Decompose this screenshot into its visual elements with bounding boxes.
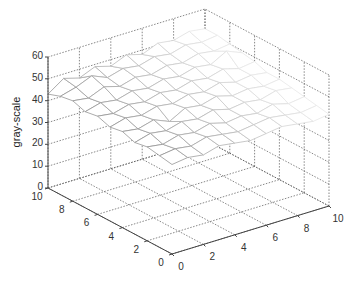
x-tick-label: 4 xyxy=(241,242,247,253)
y-tick-label: 8 xyxy=(59,204,65,215)
surface-plot: 024681002468100102030405060 gray-scale xyxy=(0,0,360,281)
floor-grid-line xyxy=(122,180,279,228)
z-axis-label: gray-scale xyxy=(10,97,22,148)
x-tick-mark xyxy=(266,225,268,227)
x-tick-mark xyxy=(329,206,331,208)
x-tick-label: 0 xyxy=(178,261,184,272)
y-tick-mark xyxy=(144,241,147,242)
floor-grid-line xyxy=(79,178,203,244)
floor-grid-line xyxy=(142,159,266,225)
z-tick-label: 30 xyxy=(32,116,44,127)
x-tick-label: 2 xyxy=(210,251,216,262)
z-tick-label: 0 xyxy=(37,181,43,192)
z-tick-label: 60 xyxy=(32,50,44,61)
y-tick-mark xyxy=(119,228,122,229)
floor-grid-line xyxy=(147,193,304,241)
z-tick-label: 20 xyxy=(32,137,44,148)
x-tick-mark xyxy=(235,235,237,237)
x-tick-mark xyxy=(203,244,205,246)
floor-grid-line xyxy=(174,150,298,216)
z-tick-label: 10 xyxy=(32,159,44,170)
y-axis-line xyxy=(48,188,172,254)
y-tick-label: 6 xyxy=(84,217,90,228)
y-tick-label: 10 xyxy=(31,191,43,202)
y-tick-mark xyxy=(169,254,172,255)
y-tick-mark xyxy=(70,201,73,202)
x-tick-label: 6 xyxy=(272,232,278,243)
x-tick-label: 8 xyxy=(304,223,310,234)
z-tick-label: 50 xyxy=(32,72,44,83)
z-tick-label: 40 xyxy=(32,94,44,105)
y-tick-label: 0 xyxy=(158,257,164,268)
floor-grid-line xyxy=(73,153,230,201)
surface-layer xyxy=(48,29,329,165)
x-tick-mark xyxy=(172,254,174,256)
floor-grid-line xyxy=(98,166,255,214)
y-tick-label: 4 xyxy=(109,231,115,242)
x-tick-label: 10 xyxy=(332,213,344,224)
x-tick-mark xyxy=(298,216,300,218)
side-wall-grid-line xyxy=(205,140,329,206)
y-tick-mark xyxy=(95,214,98,215)
y-tick-label: 2 xyxy=(133,244,139,255)
floor-grid-line xyxy=(111,169,235,235)
